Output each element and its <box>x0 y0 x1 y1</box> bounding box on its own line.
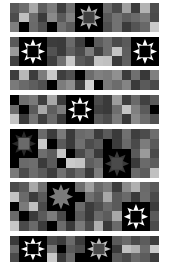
quilt-square <box>112 22 121 32</box>
quilt-square <box>66 47 75 57</box>
quilt-square <box>85 158 94 168</box>
quilt-square <box>122 47 131 57</box>
quilt-square <box>94 192 103 202</box>
quilt-square <box>10 236 19 245</box>
quilt-square <box>10 202 19 212</box>
quilt-square <box>10 13 19 23</box>
quilt-square <box>66 139 75 149</box>
quilt-square <box>85 168 94 178</box>
quilt-square <box>29 105 38 115</box>
quilt-square <box>66 221 75 231</box>
quilt-square <box>75 149 84 159</box>
star-block-icon <box>66 95 94 124</box>
quilt-square <box>140 236 149 245</box>
quilt-square <box>19 13 28 23</box>
quilt-square <box>131 70 140 80</box>
quilt-square <box>29 182 38 192</box>
quilt-square <box>66 70 75 80</box>
star-block-icon <box>122 202 150 231</box>
quilt-square <box>122 236 131 245</box>
quilt-square <box>38 70 47 80</box>
quilt-square <box>131 129 140 139</box>
quilt-square <box>122 3 131 13</box>
quilt-square <box>38 182 47 192</box>
quilt-square <box>10 22 19 32</box>
quilt-square <box>103 56 112 66</box>
star-block-icon <box>85 236 113 262</box>
quilt-square <box>66 211 75 221</box>
quilt-square <box>19 22 28 32</box>
quilt-square <box>112 47 121 57</box>
quilt-square <box>140 245 149 254</box>
quilt-square <box>47 80 56 90</box>
quilt-square <box>19 80 28 90</box>
quilt-strip <box>10 3 159 32</box>
quilt-square <box>10 245 19 254</box>
quilt-square <box>38 149 47 159</box>
quilt-square <box>57 70 66 80</box>
quilt-square <box>85 47 94 57</box>
quilt-square <box>47 47 56 57</box>
quilt-square <box>10 253 19 262</box>
quilt-square <box>103 114 112 124</box>
quilt-square <box>131 158 140 168</box>
quilt-square <box>122 192 131 202</box>
quilt-square <box>103 22 112 32</box>
quilt-square <box>19 95 28 105</box>
quilt-square <box>66 13 75 23</box>
quilt-square <box>47 168 56 178</box>
star-block-icon <box>19 236 47 262</box>
quilt-square <box>94 47 103 57</box>
quilt-square <box>57 221 66 231</box>
quilt-square <box>10 47 19 57</box>
quilt-square <box>75 158 84 168</box>
quilt-square <box>103 37 112 47</box>
quilt-square <box>66 236 75 245</box>
quilt-square <box>66 253 75 262</box>
quilt-square <box>140 149 149 159</box>
quilt-square <box>112 37 121 47</box>
quilt-square <box>150 158 159 168</box>
quilt-square <box>103 105 112 115</box>
quilt-square <box>131 253 140 262</box>
quilt-square <box>131 168 140 178</box>
quilt-square <box>75 236 84 245</box>
quilt-square <box>57 139 66 149</box>
quilt-square <box>47 221 56 231</box>
star-block-icon <box>10 129 38 158</box>
quilt-square <box>57 149 66 159</box>
quilt-square <box>112 211 121 221</box>
quilt-square <box>57 95 66 105</box>
quilt-grid <box>10 70 159 90</box>
quilt-square <box>85 139 94 149</box>
quilt-square <box>75 70 84 80</box>
quilt-square <box>94 114 103 124</box>
quilt-square <box>75 221 84 231</box>
quilt-square <box>38 129 47 139</box>
quilt-square <box>140 168 149 178</box>
quilt-square <box>140 158 149 168</box>
quilt-square <box>66 168 75 178</box>
quilt-square <box>38 211 47 221</box>
quilt-square <box>112 192 121 202</box>
quilt-square <box>122 56 131 66</box>
quilt-square <box>122 253 131 262</box>
quilt-square <box>103 192 112 202</box>
quilt-square <box>57 3 66 13</box>
quilt-square <box>94 221 103 231</box>
quilt-square <box>140 95 149 105</box>
quilt-square <box>47 253 56 262</box>
quilt-square <box>47 3 56 13</box>
star-block-icon <box>19 37 47 66</box>
quilt-square <box>57 129 66 139</box>
quilt-square <box>122 114 131 124</box>
quilt-square <box>57 158 66 168</box>
quilt-square <box>10 114 19 124</box>
quilt-square <box>94 105 103 115</box>
quilt-square <box>19 3 28 13</box>
quilt-square <box>103 95 112 105</box>
quilt-square <box>150 168 159 178</box>
quilt-square <box>122 13 131 23</box>
quilt-square <box>103 211 112 221</box>
quilt-square <box>38 3 47 13</box>
